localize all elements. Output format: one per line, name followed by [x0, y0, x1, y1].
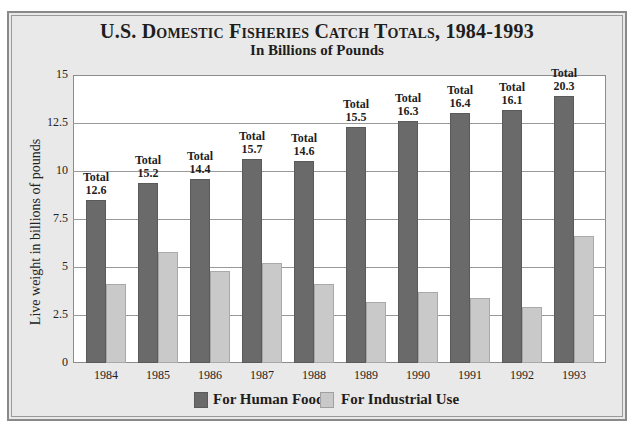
bar-industrial-use-1988 — [314, 284, 334, 363]
total-annotation-1990: Total16.3 — [383, 92, 433, 118]
bar-industrial-use-1991 — [470, 298, 490, 363]
total-value: 16.4 — [435, 97, 485, 110]
total-value: 16.3 — [383, 105, 433, 118]
bar-human-food-1986 — [190, 179, 210, 363]
total-value: 14.6 — [279, 145, 329, 158]
chart-subtitle: In Billions of Pounds — [0, 42, 634, 59]
x-tick-label: 1989 — [340, 368, 392, 383]
total-label: Total — [487, 81, 537, 94]
total-annotation-1987: Total15.7 — [227, 130, 277, 156]
bar-industrial-use-1984 — [106, 284, 126, 363]
bar-human-food-1991 — [450, 113, 470, 363]
total-annotation-1984: Total12.6 — [71, 171, 121, 197]
total-value: 15.5 — [331, 111, 381, 124]
chart-title: U.S. Domestic Fisheries Catch Totals, 19… — [0, 20, 634, 43]
bar-industrial-use-1989 — [366, 302, 386, 363]
y-tick-label: 12.5 — [28, 115, 68, 130]
total-annotation-1986: Total14.4 — [175, 150, 225, 176]
bar-human-food-1984 — [86, 200, 106, 363]
total-annotation-1985: Total15.2 — [123, 154, 173, 180]
bar-industrial-use-1985 — [158, 252, 178, 363]
x-tick-label: 1987 — [236, 368, 288, 383]
x-tick-label: 1993 — [548, 368, 600, 383]
total-label: Total — [71, 171, 121, 184]
total-annotation-1993: Total20.3 — [539, 67, 589, 93]
bar-human-food-1993 — [554, 96, 574, 363]
bar-industrial-use-1990 — [418, 292, 438, 363]
x-tick-label: 1984 — [80, 368, 132, 383]
bar-industrial-use-1986 — [210, 271, 230, 363]
bar-industrial-use-1992 — [522, 307, 542, 363]
y-axis-label: Live weight in billions of pounds — [28, 139, 44, 325]
x-tick-label: 1986 — [184, 368, 236, 383]
bar-industrial-use-1993 — [574, 236, 594, 363]
bar-human-food-1992 — [502, 110, 522, 363]
total-annotation-1988: Total14.6 — [279, 132, 329, 158]
legend-swatch-industrial-use — [320, 392, 334, 408]
bar-human-food-1988 — [294, 161, 314, 363]
x-tick-label: 1990 — [392, 368, 444, 383]
total-label: Total — [123, 154, 173, 167]
total-label: Total — [331, 98, 381, 111]
legend-swatch-human-food — [194, 392, 208, 408]
x-tick-label: 1991 — [444, 368, 496, 383]
total-annotation-1991: Total16.4 — [435, 84, 485, 110]
total-label: Total — [175, 150, 225, 163]
bar-industrial-use-1987 — [262, 263, 282, 363]
x-tick-label: 1992 — [496, 368, 548, 383]
bar-human-food-1987 — [242, 159, 262, 363]
total-annotation-1992: Total16.1 — [487, 81, 537, 107]
total-value: 12.6 — [71, 184, 121, 197]
x-tick-label: 1985 — [132, 368, 184, 383]
y-tick-label: 0 — [28, 355, 68, 370]
legend-label-human-food: For Human Food — [213, 391, 324, 408]
total-value: 15.2 — [123, 167, 173, 180]
bar-human-food-1985 — [138, 183, 158, 363]
legend-label-industrial-use: For Industrial Use — [341, 391, 459, 408]
total-value: 20.3 — [539, 80, 589, 93]
total-value: 14.4 — [175, 163, 225, 176]
total-value: 15.7 — [227, 143, 277, 156]
x-tick-label: 1988 — [288, 368, 340, 383]
total-value: 16.1 — [487, 94, 537, 107]
y-tick-label: 15 — [28, 67, 68, 82]
bar-human-food-1990 — [398, 121, 418, 363]
bar-human-food-1989 — [346, 127, 366, 363]
total-annotation-1989: Total15.5 — [331, 98, 381, 124]
